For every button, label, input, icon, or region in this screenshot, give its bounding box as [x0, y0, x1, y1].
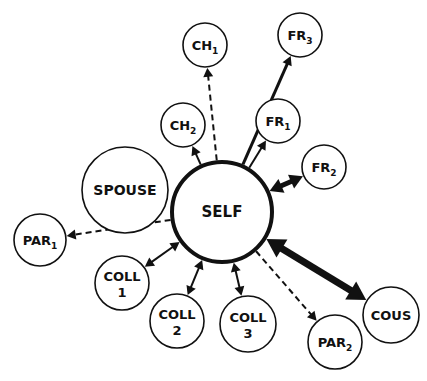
- edge-coll2: [186, 260, 203, 295]
- edge-fr2: [270, 175, 303, 193]
- node-self: SELF: [172, 162, 272, 262]
- node-number: 3: [243, 326, 252, 341]
- node-fr3: FR3: [278, 13, 322, 57]
- node-fr1: FR1: [256, 99, 300, 143]
- node-coll3: COLL3: [220, 296, 276, 352]
- arrowhead-icon: [203, 68, 213, 77]
- node-coll2: COLL2: [150, 294, 204, 348]
- node-spouse: SPOUSE: [82, 147, 168, 233]
- arrowhead-icon: [231, 263, 241, 273]
- node-label: COLL: [229, 310, 266, 325]
- node-label: COLL: [158, 307, 195, 322]
- node-label: COLL: [103, 269, 140, 284]
- node-label: COUS: [371, 308, 412, 323]
- node-par2: PAR2: [308, 315, 362, 369]
- arrowhead-icon: [169, 242, 179, 251]
- nodes-layer: CH1FR3CH2FR1FR2SPOUSEPAR1COLL1COLL2COLL3…: [14, 13, 419, 369]
- node-number: 2: [172, 323, 181, 338]
- arrowhead-icon: [235, 286, 245, 296]
- node-label: SELF: [202, 203, 243, 221]
- node-coll1: COLL1: [95, 256, 149, 310]
- edge-cous: [266, 239, 366, 300]
- node-label: SPOUSE: [93, 182, 156, 198]
- node-par1: PAR1: [14, 214, 66, 266]
- arrowhead-icon: [67, 230, 77, 240]
- arrowhead-icon: [145, 258, 155, 267]
- edge-coll3: [231, 263, 244, 296]
- node-ch2: CH2: [161, 103, 205, 147]
- node-number: 1: [117, 285, 126, 300]
- node-cous: COUS: [363, 287, 419, 343]
- node-ch1: CH1: [183, 23, 227, 67]
- edge-ch1: [203, 68, 216, 160]
- social-network-diagram: CH1FR3CH2FR1FR2SPOUSEPAR1COLL1COLL2COLL3…: [0, 0, 427, 381]
- edge-ch2: [192, 146, 201, 165]
- edge-coll1: [145, 242, 180, 267]
- node-fr2: FR2: [302, 145, 346, 189]
